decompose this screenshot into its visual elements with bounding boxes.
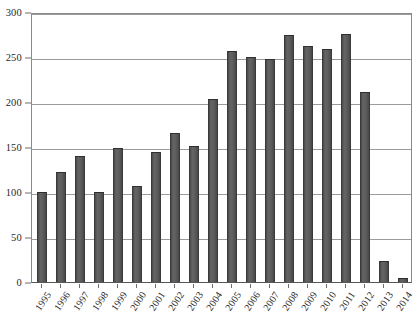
x-tick-mark <box>250 284 251 288</box>
bar[interactable] <box>208 99 218 282</box>
y-axis: 050100150200250300 <box>0 0 31 308</box>
x-tick-label: 2008 <box>281 290 301 313</box>
bar[interactable] <box>151 152 161 282</box>
bar[interactable] <box>379 261 389 282</box>
bar-slot <box>227 14 237 282</box>
x-tick-label: 2010 <box>319 290 339 313</box>
plot-area <box>31 13 412 283</box>
bar[interactable] <box>246 57 256 282</box>
bar-slot <box>398 14 408 282</box>
x-tick-label: 2001 <box>147 290 167 313</box>
bar[interactable] <box>37 192 47 282</box>
x-tick-mark <box>98 284 99 288</box>
bar[interactable] <box>341 34 351 282</box>
x-tick-mark <box>269 284 270 288</box>
x-tick-mark <box>155 284 156 288</box>
bar-slot <box>265 14 275 282</box>
x-tick-mark <box>288 284 289 288</box>
x-axis: 1995199619971998199920002001200220032004… <box>31 284 412 308</box>
x-tick-mark <box>41 284 42 288</box>
x-tick-mark <box>60 284 61 288</box>
bar[interactable] <box>170 133 180 282</box>
gridline <box>32 149 411 150</box>
x-tick-label: 1999 <box>109 290 129 313</box>
bar-slot <box>56 14 66 282</box>
x-tick-mark <box>326 284 327 288</box>
x-tick-label: 2002 <box>166 290 186 313</box>
x-tick-label: 2012 <box>357 290 377 313</box>
x-tick-label: 2009 <box>300 290 320 313</box>
bar[interactable] <box>322 49 332 282</box>
x-tick-label: 2014 <box>395 290 415 313</box>
y-tick-label: 50 <box>11 233 22 244</box>
x-tick-label: 2004 <box>205 290 225 313</box>
bar[interactable] <box>189 146 199 282</box>
y-tick-label: 0 <box>17 278 22 289</box>
bar-slot <box>151 14 161 282</box>
bar-slot <box>37 14 47 282</box>
bar-slot <box>322 14 332 282</box>
bar[interactable] <box>56 172 66 282</box>
bar[interactable] <box>284 35 294 282</box>
x-tick-mark <box>307 284 308 288</box>
x-tick-label: 2006 <box>243 290 263 313</box>
bar[interactable] <box>75 156 85 282</box>
gridline <box>32 104 411 105</box>
x-tick-mark <box>345 284 346 288</box>
x-tick-label: 1997 <box>71 290 91 313</box>
bar[interactable] <box>94 192 104 282</box>
bar-slot <box>94 14 104 282</box>
bar-slot <box>189 14 199 282</box>
x-tick-mark <box>136 284 137 288</box>
x-tick-label: 2003 <box>186 290 206 313</box>
x-tick-mark <box>212 284 213 288</box>
x-tick-mark <box>364 284 365 288</box>
bar-slot <box>284 14 294 282</box>
bar[interactable] <box>113 148 123 282</box>
bar[interactable] <box>132 186 142 282</box>
bar-slot <box>379 14 389 282</box>
x-tick-label: 2005 <box>224 290 244 313</box>
x-tick-mark <box>231 284 232 288</box>
x-tick-label: 1996 <box>52 290 72 313</box>
y-tick-label: 100 <box>6 188 22 199</box>
bar[interactable] <box>303 46 313 282</box>
x-tick-label: 2011 <box>338 290 357 312</box>
bar-slot <box>208 14 218 282</box>
y-tick-label: 200 <box>6 98 22 109</box>
x-tick-mark <box>383 284 384 288</box>
x-tick-label: 2007 <box>262 290 282 313</box>
x-tick-label: 2013 <box>376 290 396 313</box>
x-tick-label: 2000 <box>128 290 148 313</box>
bar-slot <box>360 14 370 282</box>
gridline <box>32 239 411 240</box>
bar[interactable] <box>360 92 370 282</box>
gridline <box>32 14 411 15</box>
gridline <box>32 194 411 195</box>
bar-slot <box>170 14 180 282</box>
bar-slot <box>132 14 142 282</box>
x-tick-mark <box>174 284 175 288</box>
x-tick-mark <box>79 284 80 288</box>
x-tick-mark <box>193 284 194 288</box>
gridline <box>32 59 411 60</box>
bar-slot <box>75 14 85 282</box>
y-tick-label: 150 <box>6 143 22 154</box>
bar-slot <box>113 14 123 282</box>
y-tick-label: 300 <box>6 8 22 19</box>
x-tick-mark <box>117 284 118 288</box>
bar[interactable] <box>227 51 237 282</box>
bar-slot <box>303 14 313 282</box>
bar[interactable] <box>398 278 408 282</box>
x-tick-label: 1998 <box>90 290 110 313</box>
bar-slot <box>246 14 256 282</box>
bar[interactable] <box>265 59 275 282</box>
x-tick-mark <box>402 284 403 288</box>
bar-slot <box>341 14 351 282</box>
x-tick-label: 1995 <box>33 290 53 313</box>
y-tick-label: 250 <box>6 53 22 64</box>
